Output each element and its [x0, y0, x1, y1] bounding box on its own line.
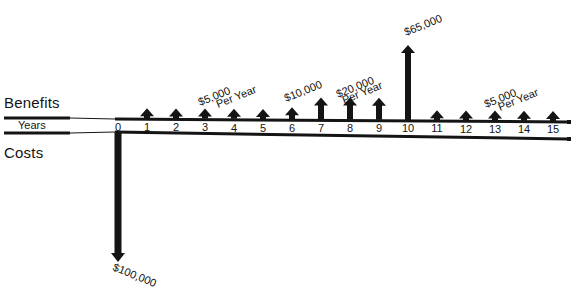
- timeline-axis: [4, 118, 571, 141]
- year-label-9: 9: [376, 122, 382, 134]
- top-line-connector: [70, 118, 115, 119]
- year-label-12: 12: [460, 123, 472, 135]
- year-label-6: 6: [289, 122, 295, 134]
- benefit-arrow-year-10: [401, 45, 415, 120]
- year-label-3: 3: [202, 121, 208, 133]
- year-label-8: 8: [347, 122, 353, 134]
- amount-annotation-2: $10,000: [282, 78, 323, 104]
- amount-annotations: $5,000Per Year$10,000$20,000Per Year$65,…: [111, 12, 540, 289]
- axis-end-cap-top: [567, 120, 571, 124]
- benefit-arrow-year-15: [546, 111, 560, 121]
- year-label-4: 4: [231, 122, 237, 134]
- amount-annotation-8: $100,000: [111, 261, 158, 289]
- top-line-main: [115, 119, 567, 122]
- year-label-0: 0: [115, 121, 121, 133]
- benefit-arrow-year-7: [314, 97, 328, 119]
- benefit-arrow-year-6: [285, 107, 299, 119]
- bottom-line-connector: [70, 132, 115, 133]
- year-label-13: 13: [489, 123, 501, 135]
- benefit-arrow-year-5: [256, 109, 270, 119]
- cost-arrows: [111, 132, 125, 262]
- benefit-arrow-year-2: [169, 108, 183, 118]
- cash-flow-diagram: 0123456789101112131415 $5,000Per Year$10…: [0, 0, 573, 305]
- benefit-arrow-year-1: [140, 108, 154, 118]
- amount-annotation-5: $65,000: [402, 12, 443, 38]
- benefit-arrow-year-12: [459, 110, 473, 120]
- year-label-15: 15: [547, 123, 559, 135]
- axis-end-cap-bottom: [567, 137, 571, 141]
- year-label-11: 11: [431, 122, 442, 134]
- year-label-14: 14: [518, 123, 530, 135]
- benefit-arrow-year-14: [517, 111, 531, 121]
- year-label-2: 2: [173, 121, 179, 133]
- year-label-1: 1: [144, 121, 150, 133]
- cost-arrow-year-0: [111, 132, 125, 262]
- benefit-arrow-year-3: [198, 109, 212, 119]
- benefit-arrow-year-9: [372, 98, 386, 120]
- year-label-10: 10: [402, 122, 414, 134]
- year-label-5: 5: [260, 122, 266, 134]
- benefit-arrow-year-11: [430, 110, 444, 120]
- year-label-7: 7: [318, 122, 324, 134]
- benefit-arrow-year-4: [227, 109, 241, 119]
